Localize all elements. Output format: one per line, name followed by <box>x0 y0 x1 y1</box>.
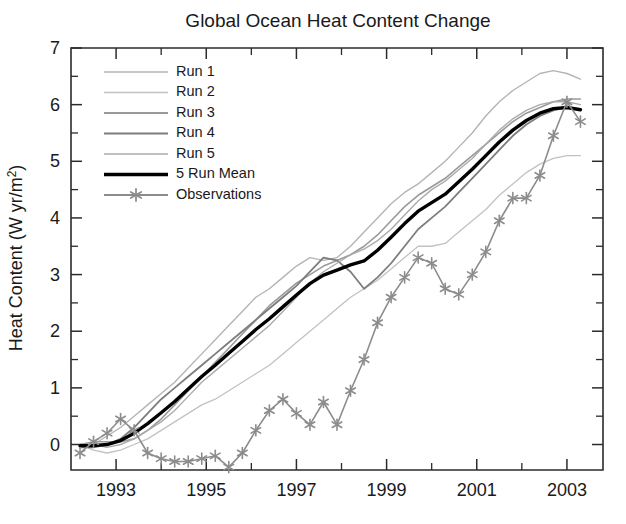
y-tick-label: 3 <box>50 265 60 285</box>
y-axis-label: Heat Content (W yr/m2) <box>5 165 26 352</box>
y-tick-label: 0 <box>50 435 60 455</box>
x-tick-label: 1999 <box>367 480 407 500</box>
x-tick-label: 1995 <box>186 480 226 500</box>
y-tick-label: 6 <box>50 95 60 115</box>
x-tick-label: 2001 <box>457 480 497 500</box>
legend-label: Run 1 <box>176 63 215 79</box>
x-tick-label: 1993 <box>96 480 136 500</box>
chart-title: Global Ocean Heat Content Change <box>185 10 490 31</box>
legend-label: 5 Run Mean <box>176 165 255 181</box>
y-tick-label: 2 <box>50 321 60 341</box>
y-tick-label: 7 <box>50 38 60 58</box>
x-tick-label: 1997 <box>276 480 316 500</box>
legend-label: Run 4 <box>176 124 215 140</box>
y-tick-label: 1 <box>50 378 60 398</box>
y-tick-label: 5 <box>50 151 60 171</box>
y-tick-label: 4 <box>50 208 60 228</box>
chart-figure: Global Ocean Heat Content Change Heat Co… <box>0 0 626 524</box>
legend-label: Run 2 <box>176 83 215 99</box>
legend-label: Run 3 <box>176 104 215 120</box>
legend-label: Run 5 <box>176 145 215 161</box>
legend-label: Observations <box>176 186 261 202</box>
chart-canvas: Global Ocean Heat Content Change Heat Co… <box>0 0 626 524</box>
x-tick-label: 2003 <box>547 480 587 500</box>
